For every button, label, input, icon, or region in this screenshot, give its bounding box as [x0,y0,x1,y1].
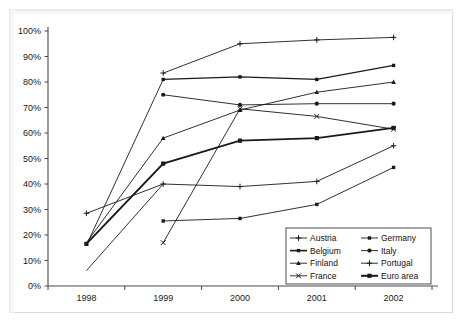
x-tick-label: 2002 [384,293,404,303]
data-point-marker [161,162,165,166]
y-tick-label: 90% [23,52,41,62]
legend-label: Euro area [381,271,419,281]
y-tick-label: 60% [23,128,41,138]
data-point-marker [161,240,166,245]
data-point-marker [237,184,243,190]
data-point-marker [392,126,396,130]
data-point-marker [315,203,318,206]
x-tick-label: 2001 [307,293,327,303]
legend-label: Portugal [381,258,413,268]
data-point-marker [315,136,319,140]
y-tick-label: 40% [23,179,41,189]
y-tick-label: 20% [23,230,41,240]
y-axis: 0%10%20%30%40%50%60%70%80%90%100% [18,26,48,291]
x-tick-label: 1998 [76,293,96,303]
legend-label: Belgium [310,246,341,256]
series-line [163,109,393,243]
y-tick-label: 50% [23,154,41,164]
data-point-marker [314,37,320,43]
data-point-marker [392,166,395,169]
data-point-marker [238,103,242,107]
legend-label: Germany [381,233,417,243]
data-point-marker [315,102,319,106]
data-point-marker [367,274,371,278]
data-point-marker [391,80,396,84]
y-tick-label: 0% [28,281,41,291]
legend-label: Italy [381,246,397,256]
data-point-marker [161,93,165,97]
y-tick-label: 70% [23,103,41,113]
legend-label: Austria [310,233,337,243]
chart-page: 0%10%20%30%40%50%60%70%80%90%100% 199819… [0,0,462,322]
legend-label: France [310,271,337,281]
data-point-marker [160,70,166,76]
series-line [163,95,393,105]
data-point-marker [315,78,318,81]
series-line [163,167,393,221]
y-tick-label: 80% [23,77,41,87]
series-line [163,37,393,73]
data-point-marker [238,139,242,143]
y-tick-label: 30% [23,205,41,215]
data-point-marker [367,249,371,253]
legend-label: Finland [310,258,338,268]
data-point-marker [162,219,165,222]
chart-legend: AustriaGermanyBelgiumItalyFinlandPortuga… [286,228,431,284]
data-point-marker [368,236,371,239]
data-point-marker [84,211,90,217]
data-point-marker [297,249,300,252]
series-line [163,65,393,79]
y-tick-label: 100% [18,26,41,36]
data-point-marker [238,217,241,220]
series-line [163,82,393,138]
data-point-marker [238,75,241,78]
data-point-marker [392,64,395,67]
line-chart: 0%10%20%30%40%50%60%70%80%90%100% 199819… [0,0,462,322]
data-point-marker [392,102,396,106]
data-point-marker [391,35,397,41]
data-point-marker [314,179,320,185]
series-line [86,79,163,245]
x-tick-label: 1999 [153,293,173,303]
data-point-marker [391,143,397,149]
x-tick-label: 2000 [230,293,250,303]
y-tick-label: 10% [23,256,41,266]
x-axis: 19981999200020012002 [48,286,438,303]
data-point-marker [237,41,243,47]
